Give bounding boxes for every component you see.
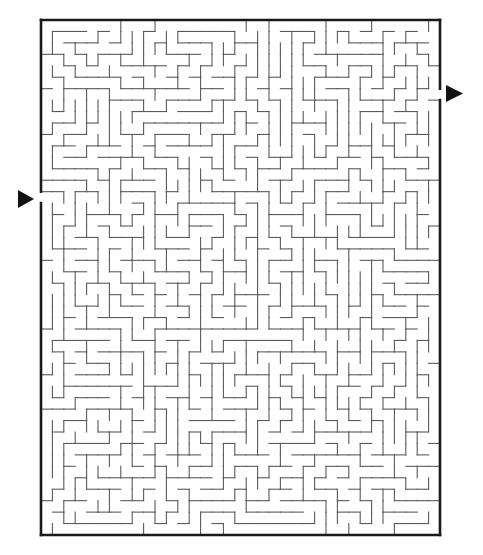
maze-walls xyxy=(41,20,440,535)
maze-board[interactable] xyxy=(0,0,483,555)
maze-outer-border xyxy=(41,20,440,535)
exit-arrow-icon[interactable] xyxy=(446,85,463,102)
entrance-arrow-icon[interactable] xyxy=(18,190,34,208)
